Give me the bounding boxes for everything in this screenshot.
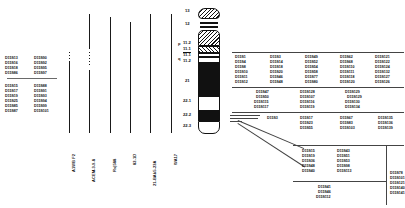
marker-label: D15S16 [5, 61, 18, 66]
band-label: 21 [185, 79, 190, 84]
marker-label: D15S46 [318, 190, 331, 195]
marker-label: D15S124 [375, 65, 390, 70]
marker-label: D15S115 [254, 100, 268, 105]
marker-label: D15S107 [300, 95, 315, 100]
marker-label: D15S126 [375, 80, 390, 85]
marker-label: D15S18 [5, 66, 18, 71]
marker-label: D15S78 [390, 171, 403, 176]
marker-label: D15S93 [34, 94, 49, 99]
marker-label: D15S47 [256, 90, 269, 95]
panel-b-top-rule [232, 87, 404, 88]
panel-c-top-rule [232, 112, 404, 113]
probe-label-3: Rs|588 [112, 159, 117, 172]
marker-label: D15S99 [34, 104, 49, 109]
marker-label: D15S17 [300, 116, 313, 121]
panel-a-top-rule [232, 52, 404, 53]
marker-label: D15S40 [302, 169, 315, 174]
marker-label: D15S46 [270, 75, 283, 80]
probe-label-2: ACEM-3-9-8 [91, 159, 96, 182]
marker-label: D15S19 [5, 94, 18, 99]
marker-label: D15S129 [345, 90, 360, 95]
marker-label: D15S48 [270, 80, 283, 85]
probe-line-5 [150, 14, 151, 133]
marker-label: D15S90 [34, 56, 47, 61]
marker-label: D15S83 [340, 121, 353, 126]
marker-label: D15S11 [235, 75, 248, 80]
marker-label: D15S112 [316, 195, 330, 200]
leader-line-1 [230, 115, 260, 116]
marker-label: D15S129 [347, 95, 362, 100]
marker-label: D15S130 [345, 100, 360, 105]
marker-label: D15S48 [302, 164, 315, 169]
marker-label: D15S91 [34, 89, 49, 94]
marker-label: D15S3 [270, 55, 281, 60]
marker-label-single: D15S3 [267, 116, 278, 121]
marker-label: D15S8 [235, 65, 246, 70]
marker-label: D15S92 [34, 61, 47, 66]
marker-label: D15S119 [300, 105, 314, 110]
band-label: 12 [185, 22, 190, 27]
marker-label: D15S1 [235, 55, 246, 60]
probe-line-4 [130, 22, 131, 133]
marker-label: D15S135 [378, 116, 393, 121]
marker-label: D15S36 [302, 159, 315, 164]
marker-label: D15S4 [235, 60, 246, 65]
marker-label: D15S101 [390, 176, 405, 181]
marker-label: D15S141 [390, 191, 405, 196]
probe-label-4: 82-1D [132, 154, 137, 165]
marker-label: D15S101 [34, 109, 49, 114]
marker-label: D15S103 [340, 126, 355, 131]
marker-label: D15S12 [235, 80, 248, 85]
marker-label: D15S68 [340, 60, 353, 65]
marker-label: D15S120 [340, 80, 355, 85]
left-block-col1-bottom: D15S15 D15S17 D15S19 D15S25 D15S85 D15S8… [5, 84, 18, 112]
marker-label: D15S128 [300, 90, 315, 95]
marker-label: D15S51 [337, 154, 350, 159]
marker-label: D15S23 [300, 121, 313, 126]
marker-label: D15S85 [5, 104, 18, 109]
marker-label: D15S19 [302, 154, 315, 159]
panel-d-top-rule [293, 145, 404, 146]
marker-label: D15S136 [378, 121, 393, 126]
marker-label: D15S43 [337, 149, 350, 154]
probe-line-2b [89, 70, 90, 133]
marker-label: D15S88 [34, 84, 49, 89]
marker-label: D15S140 [390, 186, 405, 191]
figure-canvas: D15S13 D15S16 D15S18 D15S86 D15S90 D15S9… [0, 0, 405, 208]
probe-line-3 [110, 17, 111, 133]
band-label: 11.1 [183, 53, 191, 58]
band-p11-1-centromere [198, 46, 220, 53]
marker-label: D15S25 [5, 99, 18, 104]
marker-label: D15S15 [5, 84, 18, 89]
marker-label: D15S97 [34, 71, 47, 76]
panel-e-top-rule [293, 181, 386, 182]
band-label: 22.2 [183, 113, 191, 118]
band-p12-bar2 [200, 26, 218, 28]
marker-label: D15S13 [5, 56, 18, 61]
marker-label: D15S77 [305, 75, 318, 80]
probe-dots-2 [89, 52, 90, 67]
marker-label: D15S52 [305, 60, 318, 65]
marker-label: D15S94 [34, 99, 49, 104]
leader-line-2 [230, 118, 258, 119]
marker-label: D15S111 [340, 70, 354, 75]
p-arm-mark: p [178, 41, 180, 46]
marker-label: D15S127 [375, 75, 390, 80]
marker-label: D15S98 [337, 164, 350, 169]
q-arm-mark: q [178, 56, 180, 61]
marker-label: D15S49 [305, 55, 318, 60]
marker-label: D15S121 [390, 181, 405, 186]
band-p13 [198, 8, 220, 19]
probe-label-5: 21-BAb5-23A [152, 161, 157, 186]
marker-label: D15S121 [375, 55, 390, 60]
probe-line-2a [89, 14, 90, 49]
band-label: 22.3 [183, 124, 191, 129]
marker-label: D15S62 [340, 55, 353, 60]
marker-label: D15S118 [340, 75, 354, 80]
probe-line-6 [171, 14, 172, 133]
marker-label: D15S95 [34, 66, 47, 71]
marker-label: D15S110 [340, 65, 354, 70]
band-label: 11.2 [183, 41, 191, 46]
band-q22-3 [198, 121, 220, 134]
chromosome-ideogram [198, 8, 220, 136]
